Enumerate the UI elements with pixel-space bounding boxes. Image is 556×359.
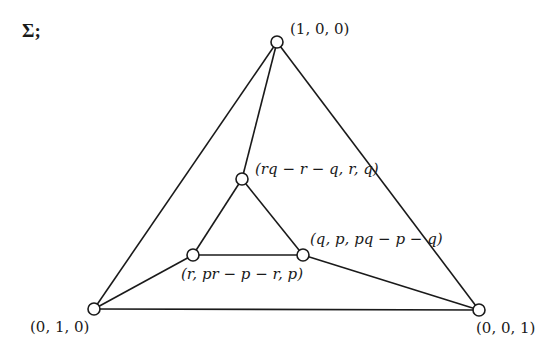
edge-inner-left-bottom-left <box>94 255 193 309</box>
edge-inner-right-bottom-right <box>303 255 479 310</box>
edge-inner-top-inner-left <box>193 179 242 255</box>
edge-inner-top-inner-right <box>242 179 303 255</box>
node-bottom-right <box>473 304 485 316</box>
label-inner-left: (r, pr − p − r, p) <box>181 267 303 282</box>
label-bottom-left: (0, 1, 0) <box>30 320 89 335</box>
node-bottom-left <box>88 303 100 315</box>
edge-bottom-left-bottom-right <box>94 309 479 310</box>
graph-svg <box>0 0 556 359</box>
label-top: (1, 0, 0) <box>290 22 349 37</box>
label-bottom-right: (0, 0, 1) <box>476 321 535 336</box>
node-inner-left <box>187 249 199 261</box>
node-top <box>271 36 283 48</box>
label-inner-right: (q, p, pq − p − q) <box>310 232 443 247</box>
label-inner-top: (rq − r − q, r, q) <box>255 162 379 177</box>
edge-top-inner-top <box>242 42 277 179</box>
node-inner-right <box>297 249 309 261</box>
diagram-canvas: Σ; (1, 0, 0) (rq − r − q, r, q) (r, pr −… <box>0 0 556 359</box>
node-inner-top <box>236 173 248 185</box>
